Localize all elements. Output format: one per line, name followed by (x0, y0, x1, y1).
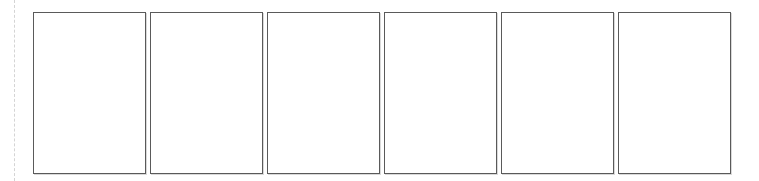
page-thumbnail-strip (33, 12, 731, 174)
page-thumbnail-4[interactable] (384, 12, 497, 174)
page-thumbnail-3[interactable] (267, 12, 380, 174)
page-thumbnail-6[interactable] (618, 12, 731, 174)
page-thumbnail-5[interactable] (501, 12, 614, 174)
page-thumbnail-1[interactable] (33, 12, 146, 174)
margin-guide-line (14, 0, 15, 181)
page-thumbnail-2[interactable] (150, 12, 263, 174)
